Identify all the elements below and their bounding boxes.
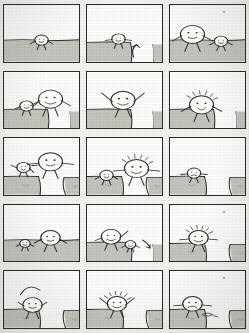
panel-artwork-4 (4, 72, 79, 129)
head (39, 90, 63, 108)
comic-panel-12 (169, 204, 246, 263)
eye-left (21, 166, 22, 167)
eye-left (24, 104, 25, 105)
panel-artwork-15 (170, 271, 245, 328)
effect-floating-speck (223, 11, 225, 12)
comic-panel-11 (86, 204, 163, 263)
panel-artwork-1 (4, 5, 79, 62)
eye-right (28, 104, 29, 105)
eye-right (35, 303, 37, 304)
ledge-right-fill (153, 45, 162, 62)
eye-left (188, 302, 190, 303)
eye-right (53, 236, 55, 237)
panel-artwork-7 (4, 138, 79, 195)
head (101, 229, 121, 244)
panel-artwork-3 (170, 5, 245, 62)
head (214, 36, 228, 46)
panel-artwork-8 (87, 138, 162, 195)
eye-left (45, 96, 47, 98)
panel-artwork-14 (87, 271, 162, 328)
eye-left (131, 166, 133, 168)
comic-panel-14 (86, 270, 163, 329)
chasm-left-fill (87, 310, 124, 328)
effect-floating-speck (223, 211, 225, 212)
eye-left (28, 303, 30, 304)
head (20, 239, 31, 247)
panel-artwork-13 (4, 271, 79, 328)
eye-right (205, 102, 207, 104)
panel-grid (0, 0, 249, 333)
head (107, 297, 127, 312)
eye-left (194, 236, 196, 237)
head (187, 168, 201, 178)
eye-right (119, 302, 121, 303)
panel-artwork-10 (4, 205, 79, 262)
motion-dash-line (32, 165, 38, 166)
speck (223, 278, 225, 279)
eye-left (196, 102, 198, 104)
eye-left (107, 235, 109, 236)
ground-fill (4, 240, 79, 262)
comic-strip (0, 0, 249, 333)
eye-right (108, 174, 109, 175)
eye-left (116, 38, 117, 39)
speck (223, 11, 225, 12)
ledge-right-fill (70, 111, 79, 128)
eye-right (120, 38, 121, 39)
comic-panel-10 (3, 204, 80, 263)
head (41, 230, 61, 245)
panel-artwork-11 (87, 205, 162, 262)
ledge-right-fill (236, 111, 245, 128)
eye-right (201, 236, 203, 237)
eye-left (187, 32, 189, 34)
eye-right (195, 302, 197, 303)
eye-left (104, 174, 105, 175)
eye-right (54, 160, 56, 162)
panel-artwork-9 (170, 138, 245, 195)
head (39, 153, 63, 171)
effect-motion-dash (32, 165, 38, 166)
ledge-right-fill (153, 244, 162, 261)
head (190, 95, 214, 113)
head (35, 35, 49, 45)
comic-panel-2 (86, 4, 163, 63)
panel-artwork-12 (170, 205, 245, 262)
eye-right (140, 166, 142, 168)
eye-right (132, 243, 133, 244)
effect-floating-speck (223, 278, 225, 279)
head (125, 160, 149, 178)
panel-artwork-6 (170, 72, 245, 129)
ledge-left-fill (4, 109, 49, 128)
head (23, 298, 43, 313)
eye-left (191, 172, 192, 173)
eye-right (113, 235, 115, 236)
comic-panel-9 (169, 137, 246, 196)
eye-right (25, 166, 26, 167)
eye-left (46, 236, 48, 237)
comic-panel-13 (3, 270, 80, 329)
head (111, 91, 135, 109)
eye-left (39, 39, 40, 40)
comic-panel-8 (86, 137, 163, 196)
head (100, 170, 114, 180)
panel-artwork-2 (87, 5, 162, 62)
chasm-left-fill (170, 177, 207, 195)
head (20, 100, 34, 110)
eye-right (54, 96, 56, 98)
head (112, 34, 126, 44)
ground-fill (170, 40, 245, 62)
ledge-left-fill (87, 42, 132, 61)
comic-panel-1 (3, 4, 80, 63)
comic-panel-15 (169, 270, 246, 329)
comic-panel-4 (3, 71, 80, 130)
eye-right (43, 39, 44, 40)
eye-right (26, 242, 27, 243)
eye-right (126, 97, 128, 99)
eye-left (45, 160, 47, 162)
speck (223, 211, 225, 212)
eye-left (218, 40, 219, 41)
panel-artwork-5 (87, 72, 162, 129)
eye-right (196, 172, 197, 173)
ground (170, 40, 245, 62)
eye-left (23, 242, 24, 243)
